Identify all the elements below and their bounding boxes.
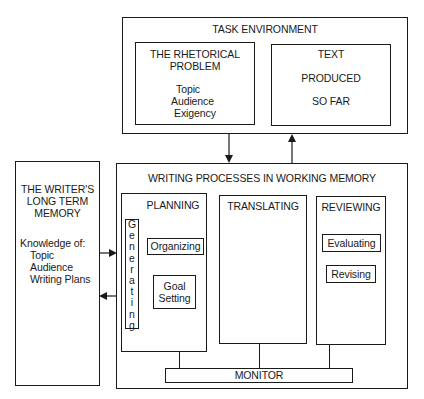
- rhetorical-item-exigency: Exigency: [174, 107, 216, 119]
- planning-title: PLANNING: [140, 199, 206, 211]
- goal-setting-line-1: Goal: [153, 280, 196, 292]
- generating-label: G e n e r a t i n g: [125, 219, 139, 331]
- evaluating-label: Evaluating: [322, 237, 381, 249]
- reviewing-title: REVIEWING: [316, 201, 386, 213]
- memory-item-topic: Topic: [30, 249, 54, 261]
- organizing-label: Organizing: [147, 240, 204, 252]
- task-environment-title: TASK ENVIRONMENT: [122, 23, 408, 35]
- text-produced-line-2: PRODUCED: [271, 72, 391, 84]
- memory-item-writing-plans: Writing Plans: [30, 273, 90, 285]
- translating-title: TRANSLATING: [219, 200, 307, 212]
- text-produced-line-3: SO FAR: [271, 95, 391, 107]
- translating-box: [219, 195, 307, 344]
- goal-setting-line-2: Setting: [153, 292, 196, 304]
- generating-letter: n: [125, 241, 139, 252]
- rhetorical-problem-title-1: THE RHETORICAL: [135, 48, 255, 60]
- planning-monitor-connector: [179, 352, 180, 368]
- writing-processes-title: WRITING PROCESSES IN WORKING MEMORY: [116, 172, 408, 184]
- memory-title-3: MEMORY: [15, 207, 100, 219]
- memory-item-audience: Audience: [30, 261, 73, 273]
- monitor-label: MONITOR: [165, 369, 353, 381]
- memory-knowledge-label: Knowledge of:: [20, 237, 85, 249]
- memory-title-1: THE WRITER'S: [15, 183, 100, 195]
- rhetorical-item-topic: Topic: [176, 83, 200, 95]
- translating-monitor-connector: [259, 344, 260, 368]
- generating-letter: i: [125, 297, 139, 308]
- rhetorical-problem-title-2: PROBLEM: [135, 60, 255, 72]
- text-produced-line-1: TEXT: [271, 48, 391, 60]
- generating-letter: g: [125, 320, 139, 331]
- memory-title-2: LONG TERM: [15, 195, 100, 207]
- rhetorical-item-audience: Audience: [171, 95, 214, 107]
- revising-label: Revising: [326, 268, 376, 280]
- reviewing-monitor-connector: [329, 345, 330, 368]
